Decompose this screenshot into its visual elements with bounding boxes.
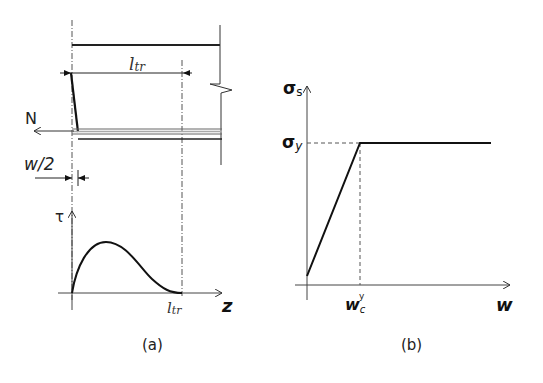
bond-stress-curve [72, 242, 182, 293]
crack-width-axis-label: w [496, 294, 513, 315]
caption-b: (b) [401, 336, 422, 354]
stress-width-curve [307, 143, 491, 276]
force-label: N [25, 109, 37, 128]
figure: ltr N w/2 τ z ltr (a) [0, 0, 543, 383]
half-crack-width-label: w/2 [24, 154, 54, 174]
transfer-length-label: ltr [129, 54, 146, 74]
bond-stress-plot: τ z ltr [55, 208, 233, 317]
panel-a: ltr N w/2 τ z ltr (a) [24, 20, 233, 354]
yield-width-sup: y [359, 291, 365, 301]
yield-stress-label: σy [282, 132, 303, 153]
tau-axis-label: τ [55, 208, 64, 226]
z-axis-label: z [221, 295, 233, 316]
panel-b: σs σy wc y w (b) [282, 78, 513, 354]
caption-a: (a) [142, 336, 163, 354]
transfer-length-tick-label: ltr [167, 299, 182, 317]
stress-axis-label: σs [283, 78, 303, 99]
